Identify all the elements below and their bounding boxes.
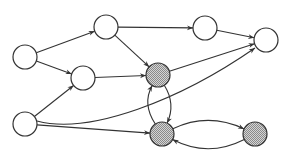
edge-h-to-i xyxy=(173,120,244,128)
node-g xyxy=(13,112,37,136)
node-i-shaded xyxy=(243,122,267,146)
edge-a-to-b xyxy=(36,31,94,53)
edge-g-to-e xyxy=(34,86,73,117)
node-f-shaded xyxy=(146,63,170,87)
edge-b-to-f xyxy=(115,35,149,67)
edge-g-to-h xyxy=(37,125,150,133)
node-d xyxy=(254,28,278,52)
edge-g-to-d xyxy=(37,48,255,124)
node-b xyxy=(94,15,118,39)
edge-c-to-d xyxy=(217,30,254,37)
edges-layer xyxy=(34,27,255,149)
edge-a-to-e xyxy=(36,61,71,74)
node-h-shaded xyxy=(150,122,174,146)
edge-f-to-h xyxy=(164,85,171,123)
edge-e-to-f xyxy=(95,76,146,78)
node-e xyxy=(71,66,95,90)
directed-graph-diagram xyxy=(0,0,284,159)
node-a xyxy=(13,45,37,69)
edge-i-to-h xyxy=(173,140,245,149)
edge-b-to-c xyxy=(118,27,193,28)
node-c xyxy=(193,16,217,40)
